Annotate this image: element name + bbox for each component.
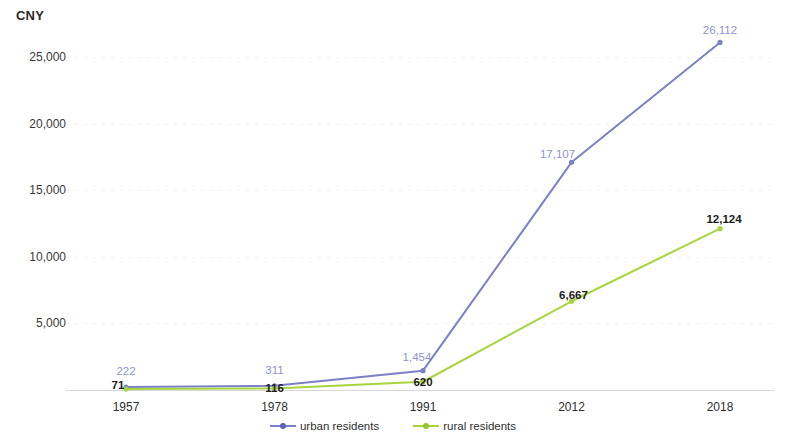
- legend-swatch-icon: [413, 421, 439, 431]
- data-point: [717, 226, 722, 231]
- x-axis-tick-label: 1991: [410, 400, 437, 414]
- legend-label: urban residents: [300, 420, 379, 432]
- legend-item[interactable]: urban residents: [270, 420, 379, 432]
- data-point: [717, 40, 722, 45]
- legend-label: rural residents: [443, 420, 516, 432]
- data-value-label: 17,107: [540, 148, 575, 160]
- data-value-label: 1,454: [403, 351, 432, 363]
- chart-legend: urban residentsrural residents: [0, 420, 786, 432]
- x-axis-tick-label: 1978: [261, 400, 288, 414]
- legend-item[interactable]: rural residents: [413, 420, 516, 432]
- data-value-label: 620: [413, 376, 432, 388]
- data-value-label: 12,124: [706, 213, 741, 225]
- x-axis-tick-label: 1957: [113, 400, 140, 414]
- x-axis-tick-label: 2018: [707, 400, 734, 414]
- data-value-label: 311: [265, 364, 283, 376]
- data-value-label: 71: [112, 379, 125, 391]
- legend-swatch-icon: [270, 421, 296, 431]
- x-axis-tick-label: 2012: [558, 400, 585, 414]
- data-point: [420, 368, 425, 373]
- data-value-label: 6,667: [559, 289, 588, 301]
- series-line: [126, 229, 720, 389]
- data-value-label: 26,112: [703, 24, 737, 36]
- line-chart: CNY 5,00010,00015,00020,00025,000 195719…: [0, 0, 786, 440]
- data-value-label: 222: [116, 365, 135, 377]
- data-value-label: 116: [265, 382, 284, 394]
- series-line: [126, 42, 720, 387]
- data-point: [569, 160, 574, 165]
